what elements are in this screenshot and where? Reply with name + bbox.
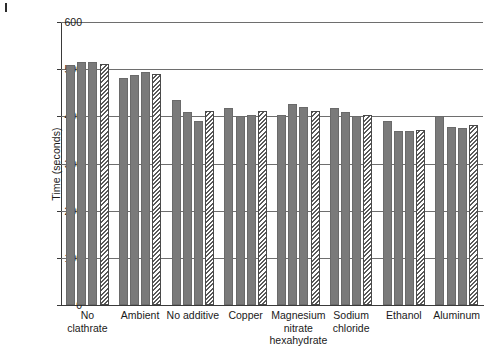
x-axis-label-line: hexahydrate [253, 334, 343, 347]
bar [205, 111, 214, 305]
bar [383, 121, 392, 305]
bar [363, 115, 372, 305]
x-axis-label-line: clathrate [42, 322, 132, 335]
bar [247, 115, 256, 305]
bar-group [61, 22, 114, 305]
bar [405, 131, 414, 305]
bar [88, 62, 97, 305]
x-axis-label-line: chloride [306, 322, 396, 335]
bar [119, 78, 128, 305]
bar [352, 116, 361, 305]
bar [394, 131, 403, 305]
bar [183, 112, 192, 305]
bar [435, 116, 444, 305]
x-axis-line [61, 305, 484, 306]
bar [172, 100, 181, 305]
bar [341, 112, 350, 305]
printers-corner-mark [5, 3, 7, 12]
bar [288, 104, 297, 305]
bar [130, 75, 139, 305]
bar [66, 65, 75, 305]
bar-group [272, 22, 325, 305]
bar [311, 111, 320, 305]
x-axis-labels: NoclathrateAmbientNo additiveCopperMagne… [0, 309, 491, 364]
bar [224, 108, 233, 305]
bar [469, 125, 478, 305]
figure-canvas: Time (seconds) 0100200300400500600 Nocla… [0, 0, 491, 364]
bar [100, 64, 109, 305]
bar [77, 62, 86, 305]
bar [236, 116, 245, 305]
bar [152, 74, 161, 305]
bar [258, 111, 267, 305]
bar-group [430, 22, 483, 305]
x-axis-label: Aluminum [412, 309, 491, 322]
bar-group [325, 22, 378, 305]
bar-group [219, 22, 272, 305]
bar [277, 115, 286, 305]
bar [141, 72, 150, 305]
x-axis-label-line: Aluminum [412, 309, 491, 322]
bar [416, 130, 425, 305]
bar [194, 121, 203, 305]
bar-group [378, 22, 431, 305]
bar-group [114, 22, 167, 305]
bar-group [167, 22, 220, 305]
plot-area: Time (seconds) 0100200300400500600 [61, 22, 483, 305]
bar [447, 127, 456, 305]
bar [330, 108, 339, 305]
bar [458, 128, 467, 305]
bar [299, 107, 308, 305]
